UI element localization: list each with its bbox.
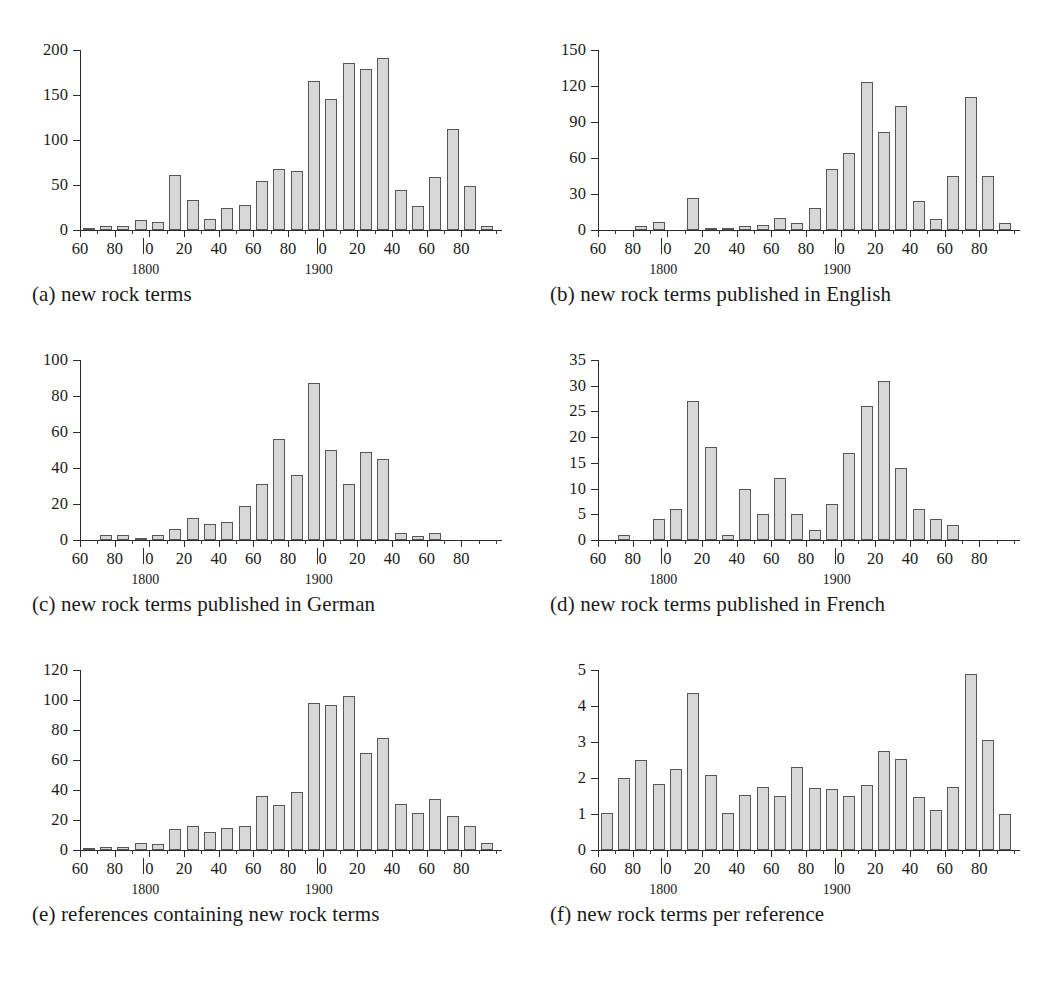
y-tick-mark — [591, 850, 598, 851]
x-tick-mark — [201, 540, 202, 544]
y-tick-mark — [73, 730, 80, 731]
y-tick-mark — [591, 742, 598, 743]
x-tick-label: 60 — [936, 550, 953, 568]
x-tick-mark — [149, 850, 150, 857]
y-tick-label: 60 — [569, 148, 586, 168]
y-tick-mark — [73, 670, 80, 671]
bar — [464, 826, 476, 850]
x-tick-mark — [806, 230, 807, 237]
bar — [325, 99, 337, 230]
x-tick-label: 40 — [902, 550, 919, 568]
y-tick-label: 100 — [43, 130, 68, 150]
y-tick-mark — [591, 670, 598, 671]
bar — [947, 787, 959, 850]
x-tick-mark — [357, 540, 358, 547]
y-tick-label: 0 — [578, 220, 586, 240]
y-axis-b: 0306090120150 — [536, 40, 598, 270]
x-tick-mark — [893, 850, 894, 854]
x-tick-label: 80 — [798, 550, 815, 568]
chart-panel-c: 0204060801006080020406080020406080180019… — [18, 350, 508, 660]
x-tick-mark — [858, 230, 859, 234]
x-tick-mark — [962, 230, 963, 234]
century-label: 1800 — [649, 882, 677, 898]
x-tick-mark — [427, 230, 428, 237]
x-tick-label: 40 — [210, 860, 227, 878]
x-tick-label: 0 — [145, 550, 153, 568]
x-tick-mark — [97, 850, 98, 854]
x-tick-mark — [236, 230, 237, 234]
x-tick-mark — [841, 230, 842, 237]
x-tick-mark — [184, 850, 185, 857]
x-tick-mark — [392, 230, 393, 237]
bar — [412, 813, 424, 851]
bar — [360, 452, 372, 540]
x-tick-mark — [375, 540, 376, 544]
y-tick-label: 60 — [51, 422, 68, 442]
y-tick-label: 0 — [578, 840, 586, 860]
y-tick-mark — [73, 700, 80, 701]
century-label: 1800 — [131, 572, 159, 588]
y-tick-mark — [591, 778, 598, 779]
x-tick-label: 60 — [763, 860, 780, 878]
x-tick-mark — [115, 850, 116, 857]
x-tick-label: 40 — [210, 240, 227, 258]
bar — [895, 106, 907, 230]
x-tick-label: 40 — [384, 860, 401, 878]
x-tick-label: 80 — [453, 240, 470, 258]
chart-caption-c: (c) new rock terms published in German — [32, 592, 375, 616]
x-axis-line-b — [598, 230, 1020, 231]
bar — [826, 169, 838, 230]
x-tick-label: 80 — [971, 240, 988, 258]
y-tick-label: 20 — [51, 810, 68, 830]
x-tick-label: 80 — [106, 550, 123, 568]
x-tick-mark — [685, 230, 686, 234]
x-tick-mark — [945, 540, 946, 547]
x-tick-label: 80 — [971, 550, 988, 568]
bar — [687, 401, 699, 540]
bar — [395, 190, 407, 231]
bar — [273, 439, 285, 540]
century-label: 1900 — [305, 882, 333, 898]
bars-d — [598, 360, 1014, 540]
bar — [930, 519, 942, 540]
century-tick-1800 — [143, 238, 144, 254]
x-tick-mark — [479, 540, 480, 544]
y-tick-mark — [73, 185, 80, 186]
bar — [135, 843, 147, 851]
y-tick-mark — [591, 158, 598, 159]
x-tick-mark — [615, 850, 616, 854]
bar — [861, 406, 873, 540]
y-tick-mark — [73, 230, 80, 231]
x-tick-mark — [927, 850, 928, 854]
x-tick-mark — [858, 850, 859, 854]
bar — [169, 829, 181, 850]
bar — [152, 844, 164, 850]
y-tick-label: 80 — [51, 720, 68, 740]
bar — [100, 226, 112, 230]
y-tick-label: 0 — [578, 530, 586, 550]
bar — [739, 795, 751, 850]
x-tick-mark — [910, 230, 911, 237]
y-tick-mark — [591, 122, 598, 123]
bar — [999, 814, 1011, 850]
x-tick-mark — [496, 850, 497, 854]
x-tick-label: 40 — [728, 860, 745, 878]
x-tick-mark — [392, 850, 393, 857]
bar — [325, 705, 337, 851]
bar — [861, 82, 873, 230]
bar — [653, 222, 665, 230]
x-tick-mark — [184, 230, 185, 237]
x-tick-label: 60 — [763, 550, 780, 568]
bar — [739, 489, 751, 540]
x-tick-mark — [841, 540, 842, 547]
x-tick-label: 60 — [418, 550, 435, 568]
bar — [169, 175, 181, 230]
x-tick-mark — [253, 850, 254, 857]
y-tick-label: 0 — [60, 530, 68, 550]
x-tick-mark — [737, 230, 738, 237]
x-tick-mark — [875, 850, 876, 857]
bar — [618, 778, 630, 850]
x-tick-mark — [875, 230, 876, 237]
x-tick-mark — [789, 540, 790, 544]
x-tick-mark — [427, 850, 428, 857]
